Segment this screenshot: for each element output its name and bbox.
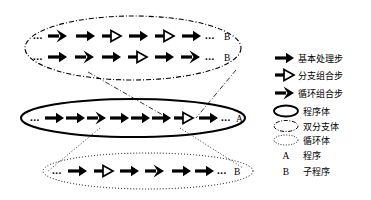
top-row-2-label: B [224,53,230,63]
legend-branch-body-label: 双分支体 [303,121,339,132]
legend-subprogram-label: 子程序 [303,166,330,177]
branch-body-top: ... ... B ... ... B [25,16,241,80]
top-row-2-trailing-dots: ... [205,50,215,62]
top-row-1-trailing-dots: ... [205,29,215,41]
legend-program-body-label: 程序体 [303,106,330,117]
bottom-row-1-label: B [234,167,240,177]
solid-arrow-icon [275,53,294,63]
legend-basic-step: 基本处理步 [275,53,343,64]
legend-branch-step: 分支组合步 [275,69,343,80]
middle-row-1-leading-dots: ... [30,111,40,123]
top-row-2: ... ... B [33,50,230,63]
bottom-row-1-leading-dots: ... [52,164,62,176]
program-structure-diagram: ... ... B ... ... B [0,0,371,200]
solid-ellipse-icon [274,106,298,117]
top-row-1: ... ... B [33,29,230,42]
dash-dot-ellipse-icon [274,121,298,132]
dotted-ellipse-icon [274,135,298,145]
legend-loop-body-label: 循环体 [303,135,330,146]
program-body-middle: ... ... A [21,99,245,137]
middle-row-1-trailing-dots: ... [221,111,231,123]
middle-row-1: ... ... A [30,111,243,124]
loop-body-bottom: ... ... B [43,153,253,189]
legend-program-label: 程序 [303,150,321,161]
legend-subprogram: B 子程序 [283,166,330,177]
top-row-1-leading-dots: ... [33,29,43,41]
legend: 基本处理步 分支组合步 循环组合步 程序体 双分支体 [274,53,343,178]
legend-loop-body: 循环体 [274,135,330,146]
diagram-canvas: ... ... B ... ... B [0,0,371,200]
legend-loop-step-label: 循环组合步 [298,88,343,99]
legend-program: A 程序 [283,150,321,161]
legend-program-body: 程序体 [274,106,330,117]
letter-b-icon: B [283,167,289,177]
top-row-2-leading-dots: ... [33,50,43,62]
bottom-row-1: ... ... B [52,164,240,177]
legend-branch-step-label: 分支组合步 [298,70,343,81]
chevron-arrow-icon [275,87,294,100]
top-row-1-label: B [224,32,230,42]
middle-row-1-label: A [236,114,243,124]
branch-body-outline [25,16,241,80]
bottom-row-1-trailing-dots: ... [217,164,227,176]
hollow-triangle-arrow-icon [275,69,294,80]
legend-branch-body: 双分支体 [274,121,339,132]
letter-a-icon: A [283,151,290,161]
legend-loop-step: 循环组合步 [275,87,343,100]
legend-basic-step-label: 基本处理步 [298,53,343,64]
